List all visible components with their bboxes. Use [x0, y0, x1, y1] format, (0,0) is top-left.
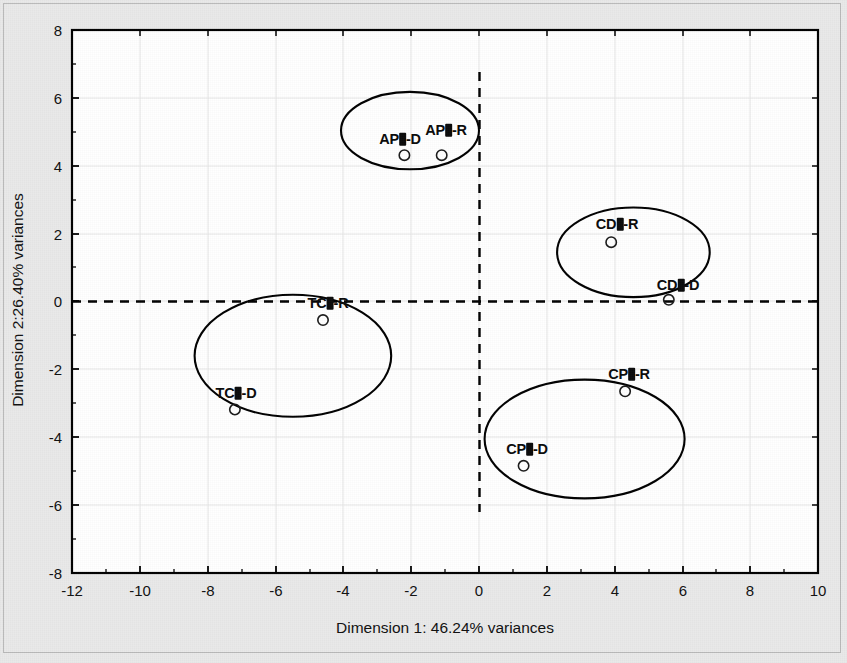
- x-axis-title: Dimension 1: 46.24% variances: [336, 620, 554, 636]
- point-label-suffix: -D: [533, 441, 548, 457]
- x-tick-label: -12: [61, 583, 83, 598]
- obscured-glyph-icon: [327, 297, 334, 310]
- point-label-AP-D: AP-D: [379, 132, 421, 147]
- y-tick-label: -4: [30, 430, 62, 445]
- x-tick-label: 0: [475, 583, 483, 598]
- point-label-prefix: CP: [506, 441, 526, 457]
- point-label-CP-R: CP-R: [608, 367, 650, 382]
- x-tick-label: -6: [269, 583, 282, 598]
- point-label-prefix: AP: [425, 122, 445, 138]
- obscured-glyph-icon: [616, 218, 623, 231]
- x-tick-label: 4: [611, 583, 619, 598]
- point-label-prefix: CD: [657, 277, 678, 293]
- obscured-glyph-icon: [628, 368, 635, 381]
- point-label-TC-R: TC-R: [308, 296, 349, 311]
- point-label-suffix: -D: [406, 131, 421, 147]
- y-tick-label: 4: [38, 159, 62, 174]
- x-tick-label: 6: [679, 583, 687, 598]
- x-tick-label: -2: [404, 583, 417, 598]
- obscured-glyph-icon: [399, 133, 406, 146]
- point-label-CD-R: CD-R: [596, 217, 638, 232]
- obscured-glyph-icon: [235, 387, 242, 400]
- y-axis-title: Dimension 2:26.40% variances: [10, 193, 26, 407]
- figure-container: -12 -10 -8 -6 -4 -2 0 2 4 6 8 10 8 6 4 2…: [0, 0, 847, 663]
- point-label-CP-D: CP-D: [506, 442, 548, 457]
- x-tick-label: -8: [201, 583, 214, 598]
- obscured-glyph-icon: [445, 124, 452, 137]
- obscured-glyph-icon: [677, 279, 684, 292]
- x-tick-label: -10: [129, 583, 151, 598]
- y-tick-label: -2: [30, 362, 62, 377]
- point-label-prefix: TC: [308, 295, 327, 311]
- point-label-suffix: -R: [623, 216, 638, 232]
- point-label-AP-R: AP-R: [425, 123, 467, 138]
- x-tick-label: 8: [746, 583, 754, 598]
- x-tick-label: -4: [336, 583, 349, 598]
- x-tick-label: 2: [543, 583, 551, 598]
- y-tick-label: 2: [38, 227, 62, 242]
- y-tick-label: 0: [38, 294, 62, 309]
- y-tick-label: -6: [30, 498, 62, 513]
- x-tick-label: 10: [810, 583, 827, 598]
- scatter-plot-canvas: [0, 0, 847, 663]
- point-label-suffix: -R: [334, 295, 349, 311]
- point-label-prefix: TC: [216, 385, 235, 401]
- point-label-suffix: -R: [452, 122, 467, 138]
- y-tick-label: -8: [30, 566, 62, 581]
- point-label-suffix: -D: [684, 277, 699, 293]
- point-label-prefix: CD: [596, 216, 617, 232]
- point-label-CD-D: CD-D: [657, 278, 699, 293]
- obscured-glyph-icon: [526, 443, 533, 456]
- point-label-suffix: -D: [242, 385, 257, 401]
- point-label-prefix: CP: [608, 366, 628, 382]
- point-label-TC-D: TC-D: [216, 386, 257, 401]
- y-tick-label: 8: [38, 23, 62, 38]
- point-label-prefix: AP: [379, 131, 399, 147]
- y-tick-label: 6: [38, 91, 62, 106]
- point-label-suffix: -R: [635, 366, 650, 382]
